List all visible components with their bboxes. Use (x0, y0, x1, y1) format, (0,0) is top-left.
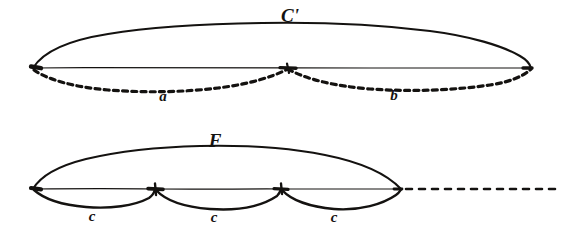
lower-arc-c-1-label: c (89, 208, 96, 224)
dashed-arc-a-label: a (159, 88, 167, 104)
lower-axis-line (33, 189, 401, 190)
lower-left-vertex-mark (31, 188, 41, 189)
lower-vibration-figure: F c c c (31, 130, 560, 225)
figure-root: C' a b (0, 0, 568, 230)
lower-arc-c-2 (156, 190, 281, 210)
lower-solid-arc (33, 146, 401, 189)
engraving-plate: C' a b (0, 0, 568, 230)
upper-vibration-figure: C' a b (31, 5, 532, 104)
lower-arc-c-2-label: c (211, 209, 218, 225)
lower-arc-c-3 (282, 190, 401, 210)
lower-arc-c-1 (34, 190, 155, 208)
lower-main-label: F (208, 130, 222, 151)
lower-arc-c-3-label: c (331, 209, 338, 225)
upper-solid-arc (33, 23, 531, 68)
upper-left-vertex-mark (31, 67, 41, 69)
dashed-arc-b-label: b (390, 87, 398, 103)
dashed-arc-b (288, 69, 531, 90)
upper-main-label: C' (281, 5, 299, 26)
